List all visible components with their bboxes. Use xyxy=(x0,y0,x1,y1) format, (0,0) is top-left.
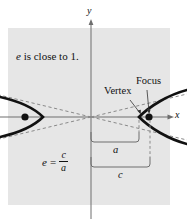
segment-a-label: a xyxy=(113,145,118,156)
x-axis-label: x xyxy=(175,110,179,120)
eccentricity-note-variable: e xyxy=(16,50,21,62)
focus-right-dot xyxy=(145,113,152,120)
segment-c-label: c xyxy=(118,170,123,181)
y-axis-label: y xyxy=(87,6,91,16)
formula-numerator: c xyxy=(59,150,67,161)
eccentricity-formula: e = c a xyxy=(42,150,68,173)
eccentricity-note: e is close to 1. xyxy=(16,51,79,62)
hyperbola-eccentricity-figure: e is close to 1. Vertex Focus x y a c e … xyxy=(0,0,187,219)
formula-lhs: e xyxy=(42,156,47,168)
focus-label: Focus xyxy=(136,76,161,87)
focus-left-dot xyxy=(21,113,28,120)
eccentricity-note-text: is close to 1. xyxy=(24,50,79,62)
figure-canvas xyxy=(0,0,187,219)
formula-equals: = xyxy=(50,156,56,168)
formula-denominator: a xyxy=(59,162,68,173)
formula-fraction: c a xyxy=(59,150,68,173)
vertex-label: Vertex xyxy=(104,86,131,97)
